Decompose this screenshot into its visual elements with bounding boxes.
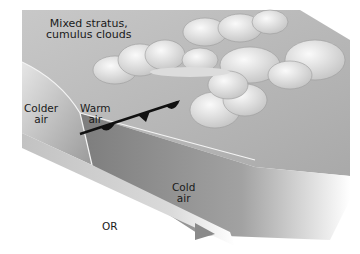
clouds-label: Mixed stratus, cumulus clouds	[46, 18, 131, 40]
or-label: OR	[102, 221, 118, 232]
cold-air-label: Cold air	[172, 182, 195, 204]
colder-air-label: Colder air	[24, 103, 58, 125]
warm-air-label: Warm air	[80, 103, 111, 125]
occluded-front-diagram: Mixed stratus, cumulus clouds Colder air…	[0, 0, 360, 254]
